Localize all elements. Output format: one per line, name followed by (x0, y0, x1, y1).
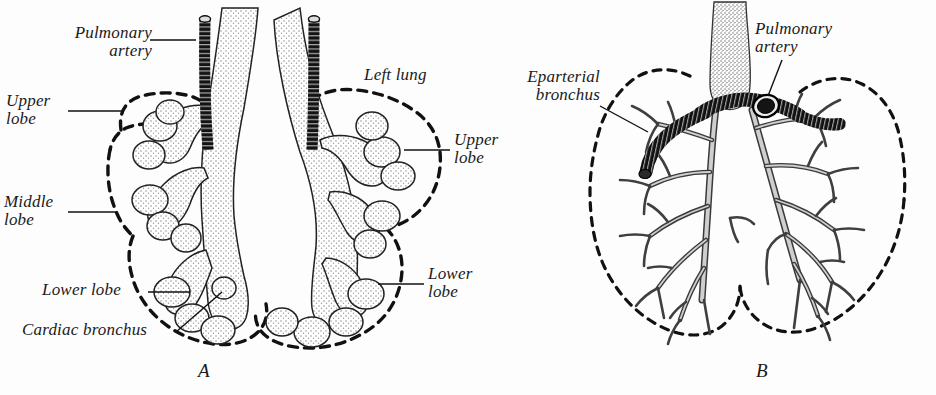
leader-pulmonary-artery-b (768, 60, 782, 96)
label-upper-lobe-left-a: Upper lobe (6, 92, 72, 129)
label-lower-lobe-right-a: Lower lobe (428, 265, 498, 302)
panel-letter-b: B (756, 360, 768, 382)
panel-b-right-bronchial-tree (620, 102, 754, 344)
label-pulmonary-artery-a: Pulmonary artery (12, 24, 152, 61)
label-eparterial-bronchus-b: Eparterial bronchus (488, 68, 600, 105)
panel-a-pulmonary-artery-right (199, 16, 210, 150)
panel-a-left-bronchus (266, 8, 415, 347)
label-left-lung-a: Left lung (364, 66, 464, 84)
label-cardiac-bronchus-a: Cardiac bronchus (22, 321, 182, 339)
panel-a-pulmonary-artery-left (308, 16, 319, 150)
panel-letter-a: A (198, 360, 210, 382)
panel-b-pulmonary-artery (700, 92, 840, 125)
label-middle-lobe-a: Middle lobe (4, 193, 74, 230)
anatomical-figure: Pulmonary artery Upper lobe Middle lobe … (0, 0, 936, 395)
label-upper-lobe-right-a: Upper lobe (454, 131, 524, 168)
label-pulmonary-artery-b: Pulmonary artery (755, 20, 885, 57)
panel-b-left-bronchial-tree (752, 94, 864, 340)
label-lower-lobe-left-a: Lower lobe (42, 281, 152, 299)
panel-b-eparterial-bronchus (639, 112, 706, 179)
